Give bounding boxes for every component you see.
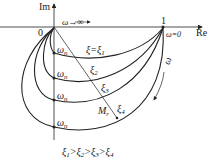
xi2-label: ξ2 [90, 65, 98, 75]
origin-label: 0 [38, 28, 43, 38]
re-label: Re [196, 28, 207, 38]
omega-n-label-1: ωn [57, 45, 68, 55]
xi3-label: ξ3 [101, 83, 109, 93]
caption: ξ1>ξ2>ξ3>ξ4 [62, 147, 113, 157]
omega-n-label-4: ωn [57, 118, 68, 128]
im-label: Im [39, 2, 50, 12]
omega-inf-label: ω→∞ [62, 17, 84, 27]
xi4-label: ξ4 [117, 104, 125, 114]
one-label: 1 [161, 16, 166, 26]
xi1-label: ξ=ξ1 [86, 45, 105, 55]
omega-n-label-3: ωn [57, 91, 68, 101]
omega-direction-arrow [154, 72, 164, 100]
mr-label: Mr [98, 106, 109, 116]
omega-n-label-2: ωn [57, 69, 68, 79]
omega-zero-label: ω=0 [166, 30, 181, 40]
nyquist-diagram [0, 0, 215, 163]
